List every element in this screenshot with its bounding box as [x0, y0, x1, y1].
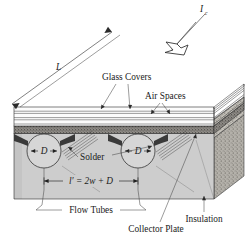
flow-tubes-label: Flow Tubes — [69, 205, 113, 215]
air-spaces-label: Air Spaces — [145, 91, 186, 101]
collector-plate-label: Collector Plate — [128, 224, 184, 234]
length-arrow-line — [12, 32, 112, 104]
solder-label: Solder — [80, 152, 105, 162]
tube-diameter-label-left: D — [40, 146, 48, 156]
length-arrowhead-upper — [104, 27, 112, 33]
collector-length-dimension — [12, 27, 120, 109]
glass-stack-front — [14, 107, 214, 126]
cover-plane-edge — [20, 35, 120, 107]
tube-diameter-label-right: D — [134, 146, 142, 156]
solar-collector-figure: D D l′ = 2w + D — [0, 0, 247, 242]
tube-spacing-label: l′ = 2w + D — [69, 176, 113, 186]
glass-covers-leaders — [101, 84, 132, 109]
incident-radiation-subscript: c — [205, 10, 208, 16]
glass-covers-leader-1 — [101, 84, 116, 109]
diagram-canvas: D D l′ = 2w + D — [0, 0, 247, 242]
glass-covers-label: Glass Covers — [102, 72, 152, 82]
incident-radiation-label: I — [199, 4, 204, 14]
insulation-label: Insulation — [185, 214, 223, 224]
collector-length-label: L — [55, 62, 61, 72]
incident-radiation-arrow — [165, 14, 205, 55]
radiation-arrowhead — [165, 42, 188, 55]
